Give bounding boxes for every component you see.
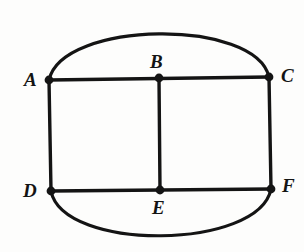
segment-CF (269, 77, 271, 189)
vertex-dot-A (45, 76, 54, 85)
vertex-label-F: F (282, 176, 295, 195)
vertex-label-D: D (23, 181, 37, 200)
segment-AD (49, 80, 51, 191)
geometry-figure: A B C D E F (0, 0, 304, 252)
vertex-dot-F (267, 185, 276, 194)
vertex-dot-E (156, 186, 165, 195)
vertex-label-E: E (152, 198, 165, 217)
vertex-label-A: A (24, 70, 37, 89)
vertex-label-B: B (150, 52, 163, 71)
segment-BE (159, 78, 160, 190)
vertex-label-C: C (281, 66, 294, 85)
vertex-dot-C (265, 73, 274, 82)
vertex-dot-B (155, 74, 164, 83)
vertex-dot-D (47, 187, 56, 196)
